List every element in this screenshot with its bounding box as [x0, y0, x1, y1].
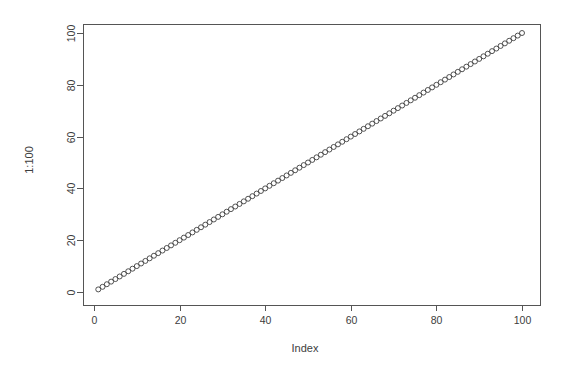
y-axis-tick-label: 80: [65, 80, 77, 92]
x-axis-tick-label: 20: [175, 314, 187, 326]
y-axis-tick-label: 20: [65, 235, 77, 247]
x-axis-tick-label: 80: [431, 314, 443, 326]
y-axis-tick-label: 60: [65, 132, 77, 144]
scatter-plot: 020406080100 020406080100 Index 1:100: [0, 0, 567, 372]
x-axis-title: Index: [292, 342, 319, 354]
y-axis-tick-label: 0: [65, 289, 77, 295]
x-axis-tick-label: 40: [260, 314, 272, 326]
x-axis-tick-label: 60: [346, 314, 358, 326]
r-graphics-device: 020406080100 020406080100 Index 1:100: [0, 0, 567, 372]
y-axis-title: 1:100: [23, 146, 35, 174]
plot-background: [0, 0, 567, 372]
y-axis-tick-label: 100: [65, 25, 77, 43]
x-axis-tick-label: 100: [514, 314, 532, 326]
y-axis-tick-label: 40: [65, 183, 77, 195]
x-axis-tick-label: 0: [92, 314, 98, 326]
